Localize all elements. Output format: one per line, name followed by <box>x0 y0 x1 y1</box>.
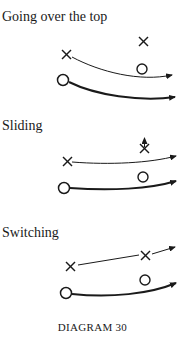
diagram-sliding <box>59 138 177 194</box>
pass-line <box>78 255 139 265</box>
x-player-icon <box>63 157 72 166</box>
o-player-icon <box>140 275 150 285</box>
thick-run-arrow <box>70 181 176 189</box>
thin-run-arrow <box>152 247 175 254</box>
x-player-icon <box>141 251 150 260</box>
x-player-icon <box>62 50 71 59</box>
x-player-icon <box>139 37 148 46</box>
o-player-icon <box>58 75 69 86</box>
o-player-icon <box>137 64 147 74</box>
thin-run-arrow <box>72 156 176 163</box>
diagram-going-over-the-top <box>58 37 176 99</box>
diagram-switching <box>61 247 177 299</box>
thin-run-arrow <box>72 57 172 77</box>
thick-run-arrow <box>69 82 175 99</box>
o-player-icon <box>61 288 72 299</box>
o-player-icon <box>59 183 70 194</box>
o-player-icon <box>138 172 148 182</box>
diagram-drawings <box>0 0 185 342</box>
thick-run-arrow <box>72 283 176 296</box>
x-player-icon <box>66 262 75 271</box>
diagram-caption: DIAGRAM 30 <box>0 321 185 333</box>
